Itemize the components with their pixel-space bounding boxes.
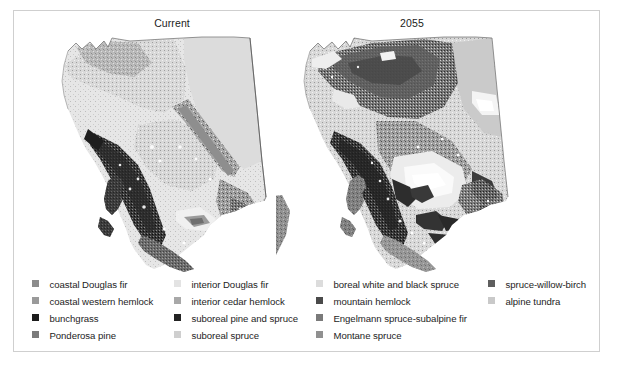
legend-column-2: interior Douglas fir interior cedar heml…	[174, 275, 298, 343]
legend-column-4: spruce-willow-birch alpine tundra	[488, 275, 586, 309]
legend-column-1: coastal Douglas fir coastal western heml…	[32, 275, 153, 343]
legend-label: suboreal spruce	[191, 327, 259, 344]
panel-title-current: Current	[34, 17, 292, 29]
legend-item: Ponderosa pine	[32, 326, 153, 343]
legend-swatch-boreal-white-and-black-spruce	[316, 280, 323, 287]
legend-item: interior Douglas fir	[174, 275, 298, 292]
map-panel-current: Current	[34, 11, 292, 273]
legend-item: coastal Douglas fir	[32, 275, 153, 292]
map-panel-2055: 2055	[276, 11, 534, 273]
legend: coastal Douglas fir coastal western heml…	[14, 275, 601, 353]
legend-item: mountain hemlock	[316, 292, 467, 309]
legend-label: interior cedar hemlock	[191, 293, 284, 310]
figure-frame: Current	[13, 10, 600, 352]
legend-label: boreal white and black spruce	[333, 276, 458, 293]
legend-swatch-engelmann-spruce-subalpine-fir	[316, 314, 323, 321]
legend-swatch-suboreal-pine-and-spruce	[174, 314, 181, 321]
legend-label: Montane spruce	[333, 327, 401, 344]
legend-swatch-ponderosa-pine	[32, 331, 39, 338]
legend-item: suboreal spruce	[174, 326, 298, 343]
map-raster-current	[34, 29, 292, 273]
legend-item: interior cedar hemlock	[174, 292, 298, 309]
legend-item: Montane spruce	[316, 326, 467, 343]
legend-swatch-interior-cedar-hemlock	[174, 297, 181, 304]
legend-label: spruce-willow-birch	[505, 276, 586, 293]
legend-swatch-mountain-hemlock	[316, 297, 323, 304]
legend-label: coastal Douglas fir	[49, 276, 127, 293]
legend-item: alpine tundra	[488, 292, 586, 309]
legend-label: mountain hemlock	[333, 293, 410, 310]
legend-item: spruce-willow-birch	[488, 275, 586, 292]
legend-label: suboreal pine and spruce	[191, 310, 298, 327]
legend-swatch-coastal-douglas-fir	[32, 280, 39, 287]
legend-label: alpine tundra	[505, 293, 560, 310]
legend-item: bunchgrass	[32, 309, 153, 326]
legend-label: coastal western hemlock	[49, 293, 153, 310]
legend-item: coastal western hemlock	[32, 292, 153, 309]
legend-swatch-suboreal-spruce	[174, 331, 181, 338]
map-raster-2055	[276, 29, 534, 273]
legend-label: Ponderosa pine	[49, 327, 116, 344]
legend-label: Engelmann spruce-subalpine fir	[333, 310, 466, 327]
legend-swatch-montane-spruce	[316, 331, 323, 338]
legend-item: boreal white and black spruce	[316, 275, 467, 292]
legend-swatch-alpine-tundra	[488, 297, 495, 304]
panel-title-2055: 2055	[276, 17, 534, 29]
legend-item: suboreal pine and spruce	[174, 309, 298, 326]
legend-label: bunchgrass	[49, 310, 98, 327]
legend-column-3: boreal white and black spruce mountain h…	[316, 275, 467, 343]
legend-swatch-interior-douglas-fir	[174, 280, 181, 287]
legend-label: interior Douglas fir	[191, 276, 268, 293]
legend-swatch-bunchgrass	[32, 314, 39, 321]
legend-swatch-coastal-western-hemlock	[32, 297, 39, 304]
legend-item: Engelmann spruce-subalpine fir	[316, 309, 467, 326]
legend-swatch-spruce-willow-birch	[488, 280, 495, 287]
